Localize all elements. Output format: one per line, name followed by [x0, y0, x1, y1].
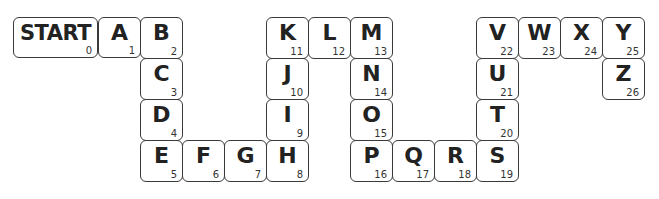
tile-number: 26 [626, 87, 639, 98]
tile-number: 9 [297, 128, 303, 139]
tile-e: E 5 [140, 140, 183, 182]
tile-label: S [477, 144, 518, 168]
tile-m: M 13 [350, 17, 393, 59]
tile-number: 8 [297, 169, 303, 180]
tile-p: P 16 [350, 140, 393, 182]
tile-number: 19 [500, 169, 513, 180]
tile-label: Y [603, 21, 644, 45]
tile-x: X 24 [560, 17, 603, 59]
tile-c: C 3 [140, 58, 183, 100]
tile-label: P [351, 144, 392, 168]
tile-number: 7 [255, 169, 261, 180]
tile-number: 2 [171, 46, 177, 57]
tile-a: A 1 [98, 17, 141, 58]
tile-label: T [477, 103, 518, 127]
tile-label: Z [603, 62, 644, 86]
tile-number: 0 [86, 45, 92, 56]
tile-number: 23 [542, 46, 555, 57]
tile-label: F [183, 144, 224, 168]
tile-label: L [309, 21, 350, 45]
tile-number: 22 [500, 46, 513, 57]
tile-number: 4 [171, 128, 177, 139]
tile-label: R [435, 144, 476, 168]
tile-v: V 22 [476, 17, 519, 59]
tile-label: B [141, 21, 182, 45]
tile-label: C [141, 62, 182, 86]
tile-number: 11 [290, 46, 303, 57]
tile-number: 13 [374, 46, 387, 57]
tile-n: N 14 [350, 58, 393, 100]
tile-number: 21 [500, 87, 513, 98]
tile-label: G [225, 144, 266, 168]
tile-number: 20 [500, 128, 513, 139]
tile-j: J 10 [266, 58, 309, 100]
tile-number: 18 [458, 169, 471, 180]
tile-label: E [141, 144, 182, 168]
tile-i: I 9 [266, 99, 309, 141]
tile-z: Z 26 [602, 58, 645, 100]
tile-o: O 15 [350, 99, 393, 141]
tile-label: A [99, 21, 140, 45]
tile-label: N [351, 62, 392, 86]
tile-label: O [351, 103, 392, 127]
tile-number: 24 [584, 46, 597, 57]
tile-w: W 23 [518, 17, 561, 59]
tile-f: F 6 [182, 140, 225, 182]
tile-label: U [477, 62, 518, 86]
tile-label: J [267, 62, 308, 86]
tile-label: I [267, 103, 308, 127]
tile-number: 6 [213, 169, 219, 180]
tile-r: R 18 [434, 140, 477, 182]
tile-label: V [477, 21, 518, 45]
tile-s: S 19 [476, 140, 519, 182]
tile-start: START 0 [13, 17, 98, 58]
tile-q: Q 17 [392, 140, 435, 182]
tile-label: X [561, 21, 602, 45]
tile-u: U 21 [476, 58, 519, 100]
tile-d: D 4 [140, 99, 183, 141]
tile-label: D [141, 103, 182, 127]
tile-number: 12 [332, 46, 345, 57]
tile-g: G 7 [224, 140, 267, 182]
tile-t: T 20 [476, 99, 519, 141]
tile-l: L 12 [308, 17, 351, 59]
tile-number: 25 [626, 46, 639, 57]
tile-label: Q [393, 144, 434, 168]
tile-h: H 8 [266, 140, 309, 182]
tile-k: K 11 [266, 17, 309, 59]
tile-y: Y 25 [602, 17, 645, 59]
tile-number: 5 [171, 169, 177, 180]
tile-number: 14 [374, 87, 387, 98]
tile-number: 16 [374, 169, 387, 180]
tile-label: START [14, 21, 97, 45]
tile-label: H [267, 144, 308, 168]
tile-number: 17 [416, 169, 429, 180]
tile-label: K [267, 21, 308, 45]
tile-number: 1 [129, 45, 135, 56]
tile-b: B 2 [140, 17, 183, 59]
tile-number: 15 [374, 128, 387, 139]
tile-number: 3 [171, 87, 177, 98]
tile-number: 10 [290, 87, 303, 98]
tile-label: M [351, 21, 392, 45]
tile-label: W [519, 21, 560, 45]
